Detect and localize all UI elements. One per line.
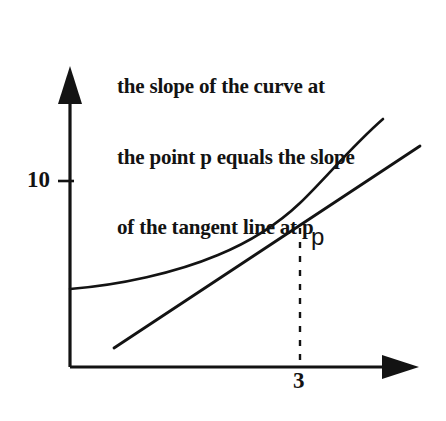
x-axis-tick-label-3: 3 bbox=[293, 368, 305, 394]
caption-line-3: of the tangent line at p bbox=[117, 216, 407, 240]
x-axis-arrow-icon bbox=[382, 355, 419, 379]
tangent-point-label-p: p bbox=[311, 223, 324, 251]
y-axis-arrow-icon bbox=[58, 66, 82, 104]
caption-line-2: the point p equals the slope bbox=[117, 146, 407, 170]
figure-canvas: the slope of the curve at the point p eq… bbox=[0, 0, 446, 421]
caption-line-1: the slope of the curve at bbox=[117, 75, 407, 99]
caption-text-block: the slope of the curve at the point p eq… bbox=[117, 28, 407, 287]
y-axis-tick-label-10: 10 bbox=[27, 167, 50, 193]
